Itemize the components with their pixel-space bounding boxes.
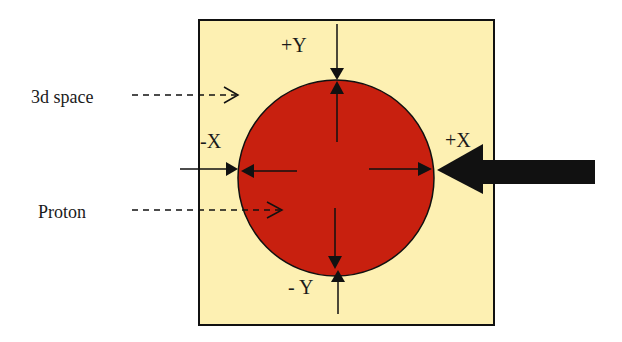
space-label: 3d space [31, 87, 93, 107]
proton-circle [238, 80, 434, 276]
minus-x-label: -X [200, 130, 222, 152]
proton-label: Proton [38, 202, 86, 222]
minus-y-label: - Y [288, 276, 313, 298]
plus-y-label: +Y [281, 34, 307, 56]
proton-diagram: 3d space Proton +Y - Y +X -X [0, 0, 622, 342]
plus-x-label: +X [445, 129, 471, 151]
